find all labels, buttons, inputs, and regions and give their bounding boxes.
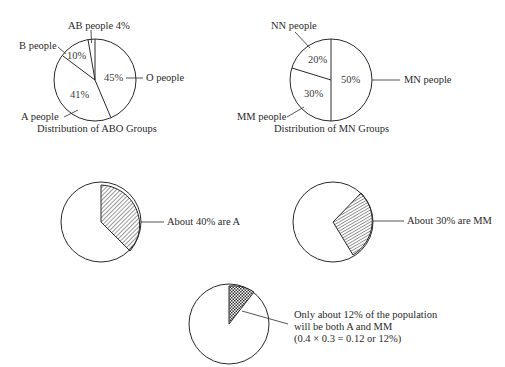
figure: AB people 4% B people 10% 45% O people 4… [0, 0, 505, 367]
a-pie [61, 182, 164, 262]
both-note-line-3: (0.4 × 0.3 = 0.12 or 12%) [294, 333, 437, 345]
abo-label-b: B people [19, 40, 57, 52]
mm-pie-note: About 30% are MM [407, 215, 492, 227]
mn-label-mn: MN people [404, 74, 452, 86]
mm-pie [293, 182, 404, 262]
mn-pct-mn: 50% [341, 74, 360, 86]
abo-caption: Distribution of ABO Groups [37, 123, 157, 135]
abo-label-o: O people [146, 72, 184, 84]
both-note-line-2: will be both A and MM [294, 321, 437, 333]
both-note-line-1: Only about 12% of the population [294, 309, 437, 321]
abo-pct-a: 41% [70, 89, 89, 101]
both-pie [189, 284, 288, 364]
a-pie-note: About 40% are A [167, 216, 240, 228]
mn-label-mm: MM people [237, 111, 286, 123]
both-pie-note: Only about 12% of the population will be… [294, 309, 437, 345]
mn-pct-mm: 30% [304, 88, 323, 100]
abo-label-a: A people [21, 111, 59, 123]
mn-label-nn: NN people [271, 20, 317, 32]
abo-pct-b: 10% [67, 50, 86, 62]
abo-pct-o: 45% [104, 72, 123, 84]
abo-label-ab: AB people 4% [68, 20, 130, 32]
mn-pct-nn: 20% [308, 54, 327, 66]
mn-caption: Distribution of MN Groups [274, 123, 389, 135]
